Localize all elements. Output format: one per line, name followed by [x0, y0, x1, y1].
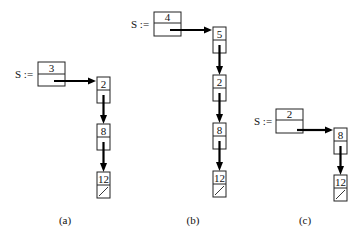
list-node: 5 — [213, 27, 226, 75]
node-value: 2 — [101, 78, 107, 90]
list-node: 2 — [213, 75, 226, 123]
list-node: 12 — [213, 171, 226, 197]
node-value: 8 — [217, 124, 223, 136]
panel-caption: (c) — [299, 214, 312, 227]
panel-b: S := 4 5 2 8 12 — [131, 11, 226, 227]
stack-var-label: S := — [131, 18, 149, 30]
list-node: 8 — [97, 124, 110, 172]
linked-stack-diagram: S := 3 2 8 12 (a) S := — [0, 0, 363, 240]
node-value: 8 — [338, 129, 344, 141]
stack-var-label: S := — [254, 115, 272, 127]
stack-count: 2 — [287, 108, 293, 120]
list-node: 8 — [213, 123, 226, 171]
panel-caption: (a) — [59, 214, 72, 227]
stack-count: 4 — [165, 11, 171, 23]
list-node: 2 — [97, 77, 110, 124]
panel-c: S := 2 8 12 (c) — [254, 108, 347, 227]
node-value: 5 — [217, 28, 223, 40]
panel-caption: (b) — [187, 214, 200, 227]
stack-count: 3 — [49, 62, 55, 74]
node-value: 8 — [101, 125, 107, 137]
node-value: 12 — [214, 172, 225, 184]
node-value: 2 — [217, 76, 223, 88]
node-value: 12 — [98, 173, 109, 185]
list-node: 8 — [334, 128, 347, 175]
panel-a: S := 3 2 8 12 (a) — [15, 62, 110, 227]
node-value: 12 — [335, 176, 346, 188]
list-node: 12 — [334, 175, 347, 201]
stack-var-label: S := — [15, 68, 33, 80]
list-node: 12 — [97, 172, 110, 198]
